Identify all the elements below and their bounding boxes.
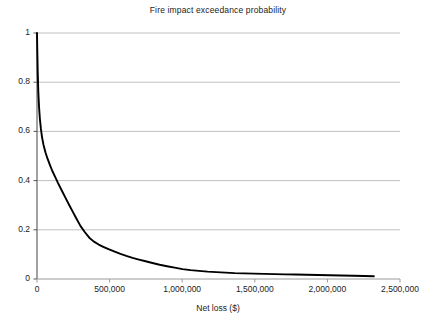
x-axis-ticks [37,279,400,283]
plot-area [0,0,436,327]
gridlines [37,33,400,230]
y-tick-label: 0 [0,273,30,283]
y-tick-label: 0.8 [0,76,30,86]
data-series-line [37,33,374,276]
y-tick-label: 0.6 [0,125,30,135]
x-tick-label: 2,500,000 [355,284,436,294]
chart-container: Fire impact exceedance probability 00.20… [0,0,436,327]
x-axis-title: Net loss ($) [0,303,436,313]
y-tick-label: 0.2 [0,224,30,234]
y-tick-label: 1 [0,27,30,37]
y-tick-label: 0.4 [0,175,30,185]
